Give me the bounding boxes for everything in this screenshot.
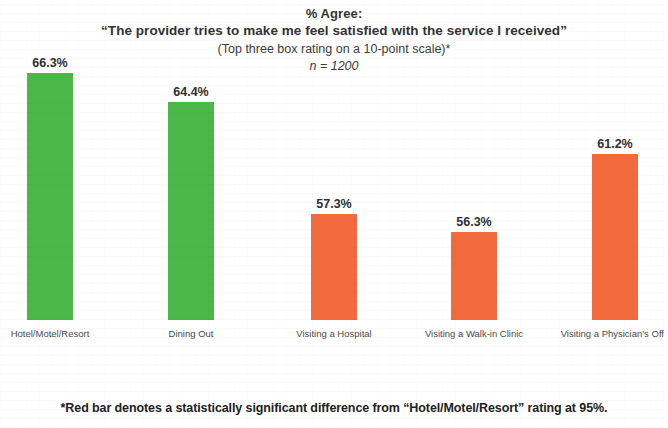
bar xyxy=(168,102,214,320)
chart-footnote: *Red bar denotes a statistically signifi… xyxy=(0,401,668,415)
bar-value-label: 61.2% xyxy=(597,137,632,151)
bar-value-label: 57.3% xyxy=(316,197,351,211)
bar-category-label: Visiting a Hospital xyxy=(296,328,371,339)
bar-value-label: 66.3% xyxy=(32,56,67,70)
bar-category-label: Visiting a Physician's Off xyxy=(561,328,664,339)
chart-figure: % Agree: “The provider tries to make me … xyxy=(0,0,668,428)
bar-value-label: 56.3% xyxy=(456,215,491,229)
plot-area: 66.3%Hotel/Motel/Resort64.4%Dining Out57… xyxy=(0,0,668,380)
bar-category-label: Dining Out xyxy=(169,328,214,339)
bar-category-label: Visiting a Walk-in Clinic xyxy=(425,328,523,339)
bar xyxy=(592,154,638,320)
bar xyxy=(27,73,73,320)
bar xyxy=(311,214,357,320)
bar xyxy=(451,232,497,320)
bar-value-label: 64.4% xyxy=(173,85,208,99)
bar-category-label: Hotel/Motel/Resort xyxy=(11,328,90,339)
